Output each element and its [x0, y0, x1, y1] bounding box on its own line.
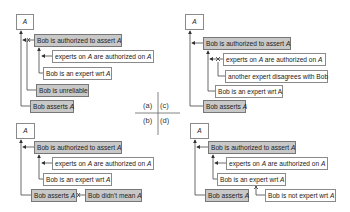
- node-bob-asserts: Bob asserts A: [30, 100, 74, 113]
- node-bob-asserts: Bob asserts A: [203, 100, 246, 113]
- node-bob-didnt-mean: Bob didn't mean A: [85, 189, 142, 202]
- claim-node: A: [16, 14, 34, 30]
- claim-node: A: [185, 14, 204, 30]
- node-another-expert-disagrees: another expert disagrees with Bob: [225, 70, 328, 83]
- node-experts-authorized: experts on A are authorized on A: [223, 53, 326, 66]
- node-bob-not-expert: Bob is not expert wrt A: [265, 189, 336, 202]
- panel-label-a: (a): [143, 101, 152, 110]
- node-bob-expert: Bob is an expert wrt A: [215, 85, 283, 98]
- panel-label-b: (b): [143, 116, 152, 125]
- node-bob-asserts: Bob asserts A: [205, 189, 249, 202]
- node-bob-asserts: Bob asserts A: [31, 189, 77, 202]
- node-authorized: Bob is authorized to assert A: [34, 141, 122, 154]
- claim-node: A: [190, 123, 209, 139]
- node-bob-expert: Bob is an expert wrt A: [43, 67, 112, 80]
- node-experts-authorized: experts on A are authorized on A: [52, 157, 154, 170]
- node-experts-authorized: experts on A are authorized on A: [52, 50, 154, 63]
- node-bob-expert: Bob is an expert wrt A: [217, 173, 286, 186]
- node-authorized: Bob is authorized to assert A: [208, 141, 296, 154]
- node-bob-expert: Bob is an expert wrt A: [43, 173, 112, 186]
- node-bob-unreliable: Bob is unreliable: [36, 84, 89, 97]
- panel-label-d: (d): [160, 116, 169, 125]
- claim-node: A: [16, 123, 35, 139]
- node-experts-authorized: experts on A are authorized on A: [226, 157, 328, 170]
- node-authorized: Bob is authorized to assert A: [34, 34, 122, 47]
- node-authorized: Bob is authorized to assert A: [203, 37, 291, 50]
- panel-label-c: (c): [160, 101, 169, 110]
